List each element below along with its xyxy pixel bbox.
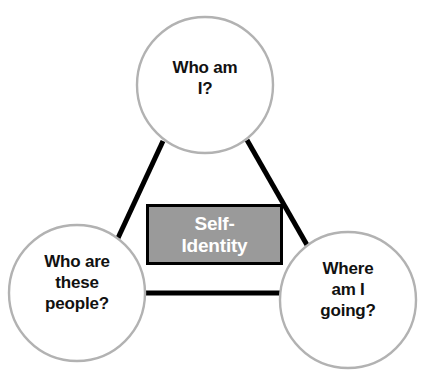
diagram-canvas xyxy=(0,0,423,382)
circle-who-am-i xyxy=(137,17,273,153)
circle-where-am-i-going xyxy=(280,232,416,368)
center-box-self-identity: Self- Identity xyxy=(146,204,283,265)
center-box-label: Self- Identity xyxy=(182,213,248,257)
self-identity-diagram: Who am I? Who are these people? Where am… xyxy=(0,0,423,382)
circle-who-are-these-people xyxy=(9,225,145,361)
